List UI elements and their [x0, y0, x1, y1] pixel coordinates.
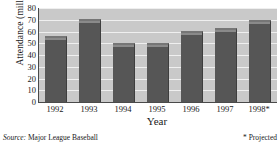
y-tick-label: 60 — [14, 27, 36, 36]
bar-series — [39, 8, 277, 102]
y-tick-label: 0 — [14, 98, 36, 107]
bar[interactable] — [215, 28, 236, 102]
bar-slot — [73, 8, 107, 102]
bar-slot — [39, 8, 73, 102]
x-axis-title: Year — [38, 115, 276, 127]
bar[interactable] — [113, 43, 134, 102]
bar-slot — [243, 8, 277, 102]
bar[interactable] — [181, 31, 202, 102]
bar-slot — [209, 8, 243, 102]
y-tick-label: 20 — [14, 74, 36, 83]
bar[interactable] — [79, 19, 100, 102]
source-label: Source: — [3, 133, 26, 142]
bar[interactable] — [45, 36, 66, 102]
plot-area — [38, 8, 277, 103]
y-axis-tick-labels: 01020304050607080 — [14, 8, 36, 102]
y-tick-label: 40 — [14, 51, 36, 60]
y-tick-label: 80 — [14, 4, 36, 13]
bar[interactable] — [249, 20, 270, 102]
bar[interactable] — [147, 43, 168, 102]
bar-slot — [175, 8, 209, 102]
y-tick-label: 50 — [14, 39, 36, 48]
source-note: Source: Major League Baseball — [3, 133, 98, 143]
source-value: Major League Baseball — [28, 133, 98, 142]
projected-note: * Projected — [243, 133, 277, 143]
bar-slot — [141, 8, 175, 102]
chart-footer: Source: Major League Baseball * Projecte… — [0, 133, 280, 146]
y-tick-label: 30 — [14, 63, 36, 72]
y-tick-label: 70 — [14, 16, 36, 25]
attendance-bar-chart: Attendance (millions) 01020304050607080 … — [0, 0, 280, 148]
y-tick-label: 10 — [14, 86, 36, 95]
bar-slot — [107, 8, 141, 102]
